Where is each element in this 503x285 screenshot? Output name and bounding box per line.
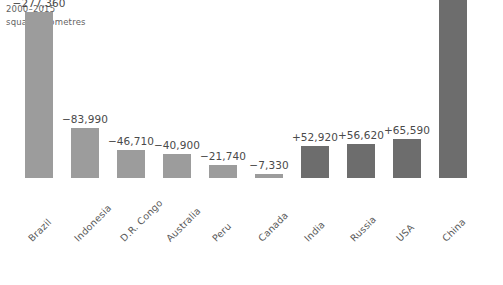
bar-value-label: +65,590 [384, 124, 430, 136]
bar-group: −277,360 [25, 12, 53, 178]
bar-value-label: +56,620 [338, 129, 384, 141]
bar-brazil [25, 12, 53, 178]
bar-peru [209, 165, 237, 178]
bar-group: −21,740 [209, 165, 237, 178]
bar-value-label: −40,900 [154, 139, 200, 151]
bar-group: +56,620 [347, 144, 375, 178]
bar-d-r-congo [117, 150, 145, 178]
bar-group: +52,920 [301, 146, 329, 178]
bar-indonesia [71, 128, 99, 178]
bar-chart: 2000–2015 square kilometres −277,360−83,… [0, 0, 503, 285]
bar-group: −7,330 [255, 174, 283, 178]
bar-value-label: −46,710 [108, 135, 154, 147]
bar-group: +65,590 [393, 139, 421, 178]
bar-canada [255, 174, 283, 178]
bar-china [439, 0, 467, 178]
bar-value-label: +52,920 [292, 131, 338, 143]
bar-australia [163, 154, 191, 178]
bar-group: −40,900 [163, 154, 191, 178]
bar-value-label: −7,330 [249, 159, 288, 171]
bar-usa [393, 139, 421, 178]
bar-value-label: −21,740 [200, 150, 246, 162]
bar-group: −83,990 [71, 128, 99, 178]
bar-russia [347, 144, 375, 178]
bar-group: +313,208 [439, 0, 467, 178]
bar-value-label: −277,360 [12, 0, 65, 9]
plot-area: −277,360−83,990−46,710−40,900−21,740−7,3… [0, 0, 503, 232]
bar-india [301, 146, 329, 178]
bar-group: −46,710 [117, 150, 145, 178]
bar-value-label: −83,990 [62, 113, 108, 125]
